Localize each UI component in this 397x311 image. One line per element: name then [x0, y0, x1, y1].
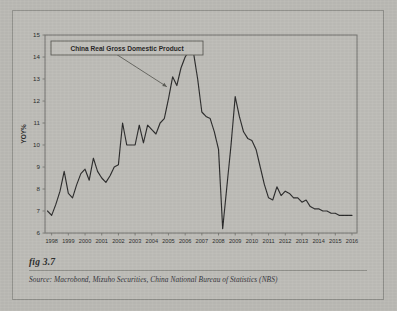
y-tick-label: 15	[33, 31, 40, 38]
x-tick-label: 2003	[129, 238, 141, 244]
y-tick-label: 14	[33, 53, 40, 60]
x-tick-label: 2009	[229, 238, 241, 244]
x-tick-label: 2005	[162, 238, 174, 244]
x-tick-label: 2012	[279, 238, 291, 244]
figure-sheet: 6789101112131415 19981999200020012002200…	[12, 10, 384, 300]
figure-source: Source: Macrobond, Mizuho Securities, Ch…	[29, 275, 369, 284]
figure-number: fig 3.7	[29, 257, 369, 267]
series-line-china-gdp	[48, 50, 352, 228]
x-tick-label: 2013	[296, 238, 308, 244]
x-tick-label: 2007	[196, 238, 208, 244]
title-callout-box: China Real Gross Domestic Product	[51, 41, 203, 55]
x-tick-label: 2014	[312, 238, 324, 244]
y-tick-label: 11	[34, 119, 41, 126]
y-tick-label: 13	[33, 75, 40, 82]
plot-frame	[45, 35, 357, 233]
x-tick-label: 2004	[146, 238, 158, 244]
y-tick-label: 10	[33, 141, 40, 148]
x-tick-label: 2016	[346, 238, 358, 244]
chart-figure: 6789101112131415 19981999200020012002200…	[13, 11, 385, 301]
x-tick-label: 2011	[263, 238, 275, 244]
chart-title-label: China Real Gross Domestic Product	[70, 45, 184, 52]
x-tick-label: 1999	[62, 238, 74, 244]
caption-divider	[29, 270, 367, 271]
arrow-head	[162, 83, 167, 87]
y-tick-label: 7	[37, 207, 41, 214]
x-axis: 1998199920002001200220032004200520062007…	[45, 233, 358, 244]
y-tick-label: 9	[37, 163, 41, 170]
y-tick-label: 12	[33, 97, 40, 104]
x-tick-label: 2001	[96, 238, 108, 244]
x-tick-label: 1998	[45, 238, 57, 244]
x-tick-label: 2002	[112, 238, 124, 244]
figure-page: 6789101112131415 19981999200020012002200…	[0, 0, 397, 311]
x-tick-label: 2010	[246, 238, 258, 244]
x-tick-label: 2008	[212, 238, 224, 244]
figure-caption-block: fig 3.7 Source: Macrobond, Mizuho Securi…	[29, 257, 369, 284]
x-tick-label: 2015	[329, 238, 341, 244]
x-tick-label: 2006	[179, 238, 191, 244]
y-axis: 6789101112131415	[33, 31, 45, 236]
y-tick-label: 8	[37, 185, 41, 192]
line-chart: 6789101112131415 19981999200020012002200…	[13, 11, 385, 257]
y-axis-title: YOY%	[20, 124, 27, 143]
x-tick-label: 2000	[79, 238, 91, 244]
y-tick-label: 6	[37, 229, 41, 236]
